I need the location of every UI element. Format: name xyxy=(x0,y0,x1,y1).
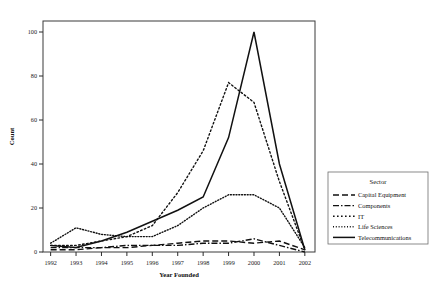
x-axis-tick-label: 1993 xyxy=(70,259,82,266)
series-line-it xyxy=(51,83,305,250)
chart-container: 020406080100Count19921993199419951996199… xyxy=(0,0,431,293)
legend-label-telecommunications: Telecommunications xyxy=(358,234,412,241)
y-axis-tick-label: 20 xyxy=(31,204,37,211)
series-line-life-sciences xyxy=(51,195,305,248)
legend-label-it: IT xyxy=(358,213,364,220)
x-axis-tick-label: 1992 xyxy=(44,259,56,266)
x-axis-tick-label: 2001 xyxy=(273,259,285,266)
y-axis-tick-label: 0 xyxy=(34,248,37,255)
y-axis-tick-label: 80 xyxy=(31,72,37,79)
x-axis-tick-label: 1997 xyxy=(172,259,184,266)
x-axis-tick-label: 1999 xyxy=(222,259,234,266)
legend-title: Sector xyxy=(370,178,388,185)
y-axis-title: Count xyxy=(8,127,15,145)
legend-label-life-sciences: Life Sciences xyxy=(358,223,393,230)
x-axis-tick-label: 1998 xyxy=(197,259,209,266)
series-line-components xyxy=(51,239,305,252)
y-axis-tick-label: 100 xyxy=(28,28,37,35)
x-axis-tick-label: 1995 xyxy=(121,259,133,266)
x-axis-tick-label: 1996 xyxy=(146,259,158,266)
legend-label-capital-equipment: Capital Equipment xyxy=(358,191,406,198)
x-axis-tick-label: 1994 xyxy=(95,259,107,266)
x-axis-title: Year Founded xyxy=(159,271,199,278)
y-axis-tick-label: 40 xyxy=(31,160,37,167)
line-chart: 020406080100Count19921993199419951996199… xyxy=(0,0,431,293)
x-axis-tick-label: 2000 xyxy=(248,259,260,266)
legend-label-components: Components xyxy=(358,202,391,209)
y-axis-tick-label: 60 xyxy=(31,116,37,123)
x-axis-tick-label: 2002 xyxy=(299,259,311,266)
